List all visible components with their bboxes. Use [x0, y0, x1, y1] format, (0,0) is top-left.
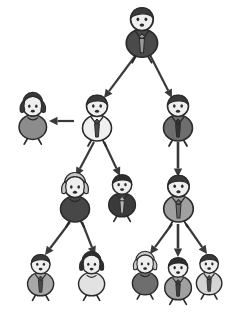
person-node-supervisor-female[interactable]	[51, 170, 99, 228]
person-node-manager-left[interactable]	[73, 89, 121, 147]
body-torso	[132, 272, 158, 295]
eye-right	[94, 263, 96, 266]
eye-right	[180, 185, 183, 188]
hair-left-flare	[133, 260, 137, 270]
tie-blade	[207, 280, 211, 292]
eye-right	[180, 266, 182, 269]
tie-blade	[176, 205, 181, 219]
eye-left	[173, 266, 175, 269]
eye-right	[99, 104, 102, 107]
mouth	[140, 23, 145, 26]
eye-right	[124, 183, 126, 186]
node-layer	[0, 0, 236, 318]
person-node-manager-right[interactable]	[154, 89, 202, 147]
eye-right	[43, 263, 45, 266]
mouth	[31, 110, 35, 113]
person-node-assistant-female-left[interactable]	[10, 90, 56, 145]
mouth	[39, 268, 43, 271]
eye-left	[205, 263, 207, 266]
mouth	[143, 268, 147, 271]
org-chart-diagram	[0, 0, 236, 318]
hair-left-flare	[62, 182, 67, 194]
hair-left-flare	[20, 102, 25, 113]
person-node-staff-male-1[interactable]	[19, 249, 62, 301]
eye-left	[173, 185, 176, 188]
eye-right	[147, 263, 149, 266]
mouth	[176, 271, 180, 274]
eye-left	[173, 104, 176, 107]
tie-blade	[176, 284, 180, 296]
tie-blade	[176, 124, 181, 137]
mouth	[120, 188, 124, 191]
person-node-supervisor-male-center[interactable]	[100, 169, 144, 222]
body-torso	[61, 196, 90, 222]
hair-right-flare	[100, 260, 104, 270]
body-torso	[79, 272, 105, 295]
tie-blade	[120, 201, 124, 213]
mouth	[95, 110, 99, 113]
mouth	[176, 110, 180, 113]
person-node-supervisor-male-right[interactable]	[154, 169, 203, 228]
eye-right	[35, 105, 37, 108]
person-node-staff-female-1[interactable]	[70, 249, 113, 301]
person-node-staff-male-3[interactable]	[188, 249, 230, 300]
eye-left	[137, 17, 140, 21]
eye-left	[87, 263, 89, 266]
person-node-executive-top[interactable]	[116, 1, 168, 64]
tie-blade	[39, 280, 43, 292]
eye-left	[117, 183, 119, 186]
hair-right-flare	[84, 182, 89, 194]
eye-left	[28, 105, 30, 108]
eye-left	[141, 263, 143, 266]
mouth	[73, 191, 77, 194]
tie-blade	[139, 38, 144, 52]
eye-right	[211, 263, 213, 266]
eye-right	[145, 17, 148, 21]
mouth	[176, 191, 180, 194]
eye-left	[92, 104, 95, 107]
mouth	[90, 268, 94, 271]
eye-right	[77, 185, 80, 188]
mouth	[207, 268, 211, 271]
hair-right-flare	[41, 102, 46, 113]
tie-blade	[95, 124, 100, 137]
hair-left-flare	[80, 260, 84, 270]
eye-left	[36, 263, 38, 266]
body-torso	[19, 115, 47, 140]
eye-right	[180, 104, 183, 107]
eye-left	[70, 185, 73, 188]
